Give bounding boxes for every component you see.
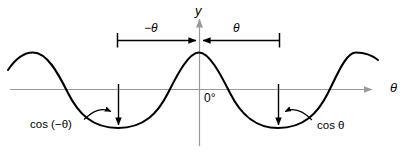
dimension-bar	[118, 33, 280, 48]
cosine-curve	[8, 53, 378, 129]
y-axis-label: y	[195, 4, 202, 17]
dimension-label-theta: θ	[233, 22, 240, 34]
callout-label-cos-theta: cos θ	[317, 120, 345, 132]
callout-label-cos-neg-theta: cos (−θ)	[30, 119, 72, 131]
cosine-negative-angle-figure: y θ −θ θ 0° cos (−θ) cos θ	[0, 0, 411, 152]
origin-label: 0°	[204, 92, 215, 104]
minima-pointer-group	[119, 84, 279, 125]
x-axis-label: θ	[390, 81, 397, 94]
dimension-label-neg-theta: −θ	[144, 22, 158, 34]
